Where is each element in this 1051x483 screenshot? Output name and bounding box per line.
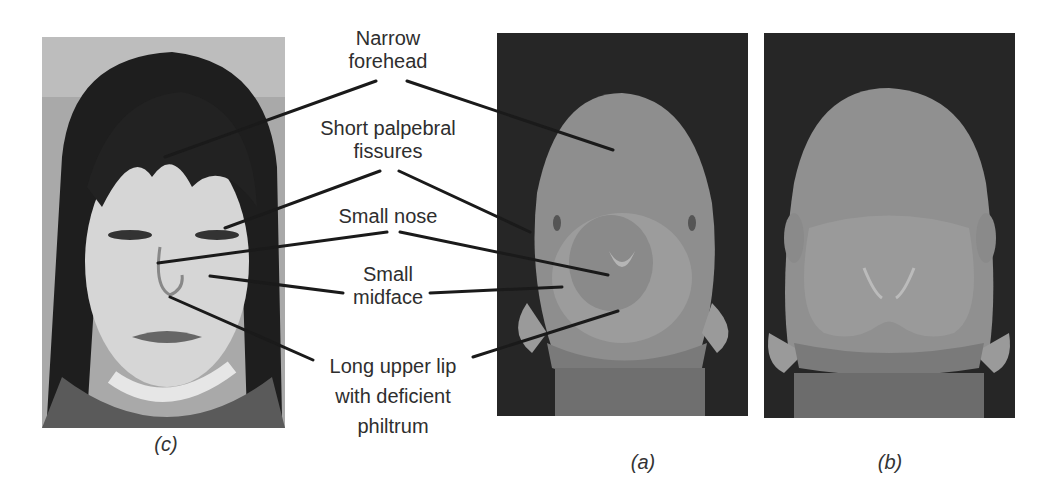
caption-b: (b) — [878, 451, 902, 474]
label-small-nose: Small nose — [339, 205, 438, 228]
label-line: philtrum — [330, 411, 457, 441]
label-short-palpebral-fissures: Short palpebral fissures — [320, 117, 456, 163]
caption-c: (c) — [154, 433, 177, 456]
label-line: midface — [353, 286, 423, 309]
label-line: Narrow — [349, 27, 428, 50]
label-line: Small — [353, 263, 423, 286]
label-line: with deficient — [330, 381, 457, 411]
label-line: fissures — [320, 140, 456, 163]
sem-panel-a — [497, 33, 748, 416]
label-line: Small nose — [339, 205, 438, 228]
label-long-upper-lip: Long upper lip with deficient philtrum — [330, 351, 457, 441]
label-small-midface: Small midface — [353, 263, 423, 309]
label-line: forehead — [349, 50, 428, 73]
label-line: Short palpebral — [320, 117, 456, 140]
sem-panel-b — [764, 33, 1015, 418]
sem-embryo-face-a — [497, 33, 748, 416]
child-face-illustration — [42, 37, 285, 428]
sem-embryo-face-b — [764, 33, 1015, 418]
caption-a: (a) — [631, 451, 655, 474]
label-line: Long upper lip — [330, 351, 457, 381]
child-photo-panel — [42, 37, 285, 428]
label-narrow-forehead: Narrow forehead — [349, 27, 428, 73]
